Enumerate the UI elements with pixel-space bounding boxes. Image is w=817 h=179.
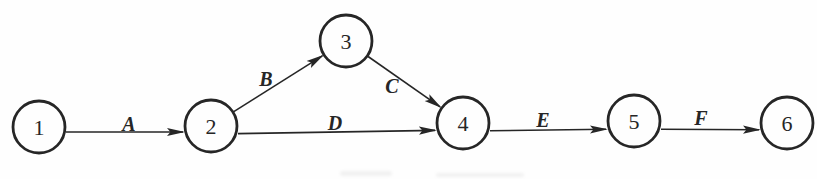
edge-line-C [368, 57, 440, 107]
activity-network-diagram: 123456 ABCDEF [0, 0, 817, 179]
edge-label-F: F [693, 107, 708, 129]
node-label-5: 5 [629, 109, 640, 134]
edge-label-E: E [535, 109, 549, 131]
node-label-2: 2 [206, 114, 217, 139]
scan-artifact [436, 173, 524, 177]
edge-label-D: D [327, 112, 342, 134]
node-label-3: 3 [341, 29, 352, 54]
network-diagram-figure: 123456 ABCDEF [0, 0, 817, 179]
node-label-4: 4 [458, 111, 469, 136]
node-label-6: 6 [782, 111, 793, 136]
edge-label-B: B [258, 68, 272, 90]
edge-label-A: A [120, 113, 135, 135]
node-label-1: 1 [34, 115, 45, 140]
scan-artifact [340, 171, 392, 176]
edge-line-F [661, 129, 759, 130]
edge-label-C: C [385, 75, 399, 97]
edge-line-B [234, 56, 322, 112]
